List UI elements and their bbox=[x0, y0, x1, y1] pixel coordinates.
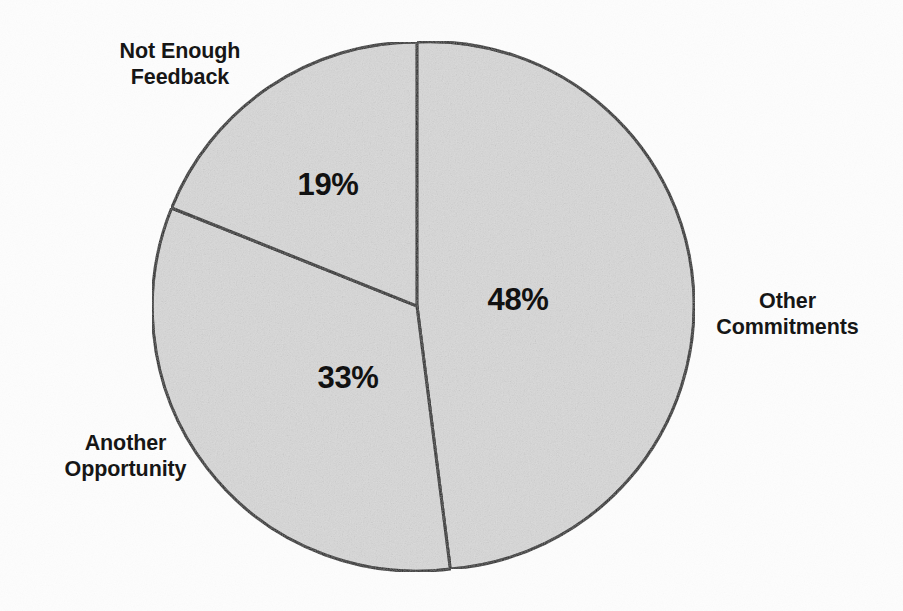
slice-label-another-opportunity: Another Opportunity bbox=[8, 430, 243, 482]
slice-value-other-commitments: 48% bbox=[448, 283, 588, 317]
slice-label-not-enough-feedback: Not Enough Feedback bbox=[55, 38, 305, 90]
pie-chart-figure: Not Enough Feedback Other Commitments An… bbox=[0, 0, 903, 611]
slice-value-not-enough-feedback: 19% bbox=[258, 168, 398, 202]
slice-value-another-opportunity: 33% bbox=[278, 361, 418, 395]
slice-label-other-commitments: Other Commitments bbox=[672, 288, 903, 340]
